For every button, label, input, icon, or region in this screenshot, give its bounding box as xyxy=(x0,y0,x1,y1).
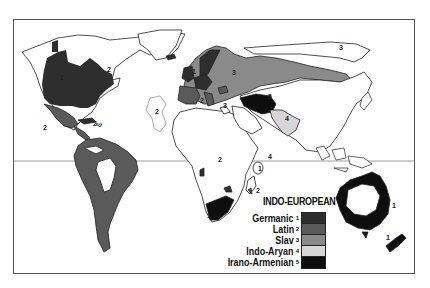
swatch-irano-armenian xyxy=(302,257,325,268)
legend-row-irano-armenian: Irano-Armenian5 xyxy=(216,256,299,267)
legend-swatches xyxy=(301,212,326,269)
australia xyxy=(336,172,406,252)
region-label: 5 xyxy=(268,93,272,100)
region-label: 1 xyxy=(207,212,211,219)
region-label: 3 xyxy=(223,102,227,109)
legend-title: INDO-EUROPEAN xyxy=(263,195,336,207)
swatch-indo-aryan xyxy=(302,246,325,257)
legend-row-indo-aryan: Indo-Aryan4 xyxy=(238,245,299,256)
region-label: 2 xyxy=(93,120,97,127)
region-label: 1 xyxy=(258,165,262,172)
south-america xyxy=(74,138,138,252)
legend-row-slav: Slav3 xyxy=(272,234,299,245)
southeast-asia xyxy=(316,146,372,172)
swatch-latin xyxy=(302,224,325,235)
region-label: 1 xyxy=(392,202,396,209)
legend-number: 1 xyxy=(296,215,299,221)
region-label: 4 xyxy=(268,153,272,160)
legend-label: Irano-Armenian xyxy=(228,256,294,268)
swatch-germanic xyxy=(302,213,325,224)
region-label: 2 xyxy=(256,187,260,194)
region-label: 4 xyxy=(285,115,289,122)
legend-number: 4 xyxy=(296,248,299,254)
legend-number: 5 xyxy=(296,259,299,265)
region-label: 2 xyxy=(155,108,159,115)
region-label: 1 xyxy=(386,234,390,241)
legend-row-germanic: Germanic1 xyxy=(245,212,299,223)
legend-row-latin: Latin2 xyxy=(269,223,299,234)
region-label: 2 xyxy=(200,97,204,104)
world-map: 1 2 1 3 2 2 2 2 3 5 4 3 2 1 2 1 4 1 1 xyxy=(0,0,430,288)
region-label: 2 xyxy=(43,124,47,131)
region-label: 1 xyxy=(60,74,64,81)
region-label: 2 xyxy=(218,156,222,163)
region-label: 3 xyxy=(232,69,236,76)
region-label: 1 xyxy=(192,68,196,75)
legend-number: 3 xyxy=(296,237,299,243)
region-label: 3 xyxy=(339,44,343,51)
legend-number: 2 xyxy=(296,226,299,232)
region-label: 2 xyxy=(107,66,111,73)
swatch-slav xyxy=(302,235,325,246)
